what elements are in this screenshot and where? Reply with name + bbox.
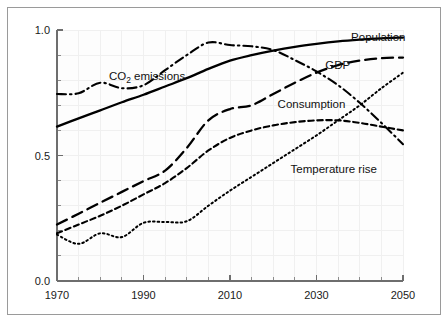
series-label-gdp: GDP [325, 59, 350, 71]
co2-label-suffix: emissions [131, 70, 186, 82]
series-label-population: Population [351, 31, 405, 43]
x-tick-label-1990: 1990 [131, 289, 155, 301]
chart-figure: 1.0 0.5 0.0 1970 1990 2010 2030 2050 Pop… [0, 0, 448, 322]
y-tick-labels: 1.0 0.5 0.0 [35, 24, 50, 287]
x-tick-label-1970: 1970 [45, 289, 69, 301]
x-tick-label-2050: 2050 [391, 289, 415, 301]
line-chart: 1.0 0.5 0.0 1970 1990 2010 2030 2050 Pop… [0, 0, 448, 322]
x-tick-labels: 1970 1990 2010 2030 2050 [45, 289, 415, 301]
series-label-consumption: Consumption [278, 98, 346, 110]
x-tick-label-2010: 2010 [218, 289, 242, 301]
series-label-temperature: Temperature rise [291, 163, 377, 175]
co2-label-prefix: CO [109, 70, 126, 82]
x-tick-label-2030: 2030 [304, 289, 328, 301]
y-tick-label-0-0: 0.0 [35, 275, 50, 287]
y-tick-label-0-5: 0.5 [35, 150, 50, 162]
y-tick-label-1-0: 1.0 [35, 24, 50, 36]
